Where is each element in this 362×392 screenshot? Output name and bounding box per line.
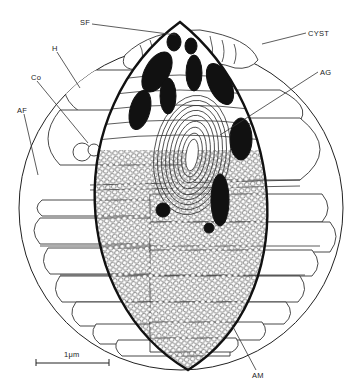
label-af: AF <box>17 106 27 115</box>
label-am: AM <box>252 371 264 380</box>
scale-bar-label: 1μm <box>64 350 80 359</box>
cyst-diagram: SF CYST H AG Co AF AM 1μm <box>0 0 362 392</box>
label-ag: AG <box>320 68 331 77</box>
scale-bar: 1μm <box>36 350 109 366</box>
label-sf: SF <box>80 18 90 27</box>
label-co: Co <box>31 73 41 82</box>
label-h: H <box>52 44 58 53</box>
label-cyst: CYST <box>308 29 329 38</box>
